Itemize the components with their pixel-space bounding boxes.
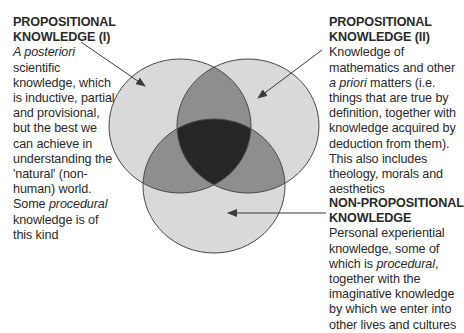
- body-line: theology, morals and: [329, 167, 456, 182]
- body-line: Knowledge of: [329, 45, 456, 60]
- label-propositional-i: PROPOSITIONAL KNOWLEDGE (I) A posteriori…: [13, 15, 116, 243]
- body-line: together with the: [329, 272, 464, 287]
- body-line: This also includes: [329, 152, 456, 167]
- body-line: definition, together with: [329, 106, 456, 121]
- body-line: scientific: [13, 61, 116, 76]
- body-line: a priori matters (i.e.: [329, 76, 456, 91]
- body-line: by which we enter into: [329, 302, 464, 317]
- body-line: things that are true by: [329, 91, 456, 106]
- body-line: understanding the: [13, 152, 116, 167]
- body-line: this kind: [13, 228, 116, 243]
- label-non-propositional: NON-PROPOSITIONAL KNOWLEDGE Personal exp…: [329, 196, 464, 333]
- heading-line: PROPOSITIONAL: [13, 15, 116, 30]
- body-line: knowledge, which: [13, 76, 116, 91]
- heading-line: KNOWLEDGE (I): [13, 30, 116, 45]
- body-line: other lives and cultures: [329, 318, 464, 333]
- body-line: Some procedural: [13, 197, 116, 212]
- body-line: A posteriori: [13, 45, 116, 60]
- heading-line: PROPOSITIONAL: [329, 15, 456, 30]
- label-propositional-ii: PROPOSITIONAL KNOWLEDGE (II) Knowledge o…: [329, 15, 456, 197]
- body-line: and provisional,: [13, 106, 116, 121]
- body-line: but the best we: [13, 121, 116, 136]
- body-line: imaginative knowledge: [329, 287, 464, 302]
- body-line: knowledge, some of: [329, 242, 464, 257]
- body-line: knowledge is of: [13, 213, 116, 228]
- body-line: mathematics and other: [329, 61, 456, 76]
- body-line: knowledge acquired by: [329, 121, 456, 136]
- heading-line: KNOWLEDGE: [329, 211, 464, 226]
- body-line: human) world.: [13, 182, 116, 197]
- heading-line: KNOWLEDGE (II): [329, 30, 456, 45]
- body-line: can achieve in: [13, 137, 116, 152]
- heading-line: NON-PROPOSITIONAL: [329, 196, 464, 211]
- body-line: Personal experiential: [329, 226, 464, 241]
- body-line: 'natural' (non-: [13, 167, 116, 182]
- body-line: deduction from them).: [329, 137, 456, 152]
- body-line: is inductive, partial: [13, 91, 116, 106]
- body-line: which is procedural,: [329, 257, 464, 272]
